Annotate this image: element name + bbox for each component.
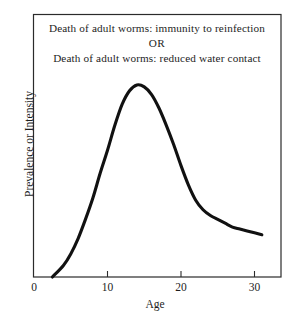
- y-axis-title: Prevalence or Intensity: [23, 59, 35, 229]
- annotation-line-1: Death of adult worms: immunity to reinfe…: [36, 21, 278, 36]
- x-tick-label-10: 10: [93, 281, 123, 293]
- x-tick-label-30: 30: [240, 281, 270, 293]
- annotation-line-2: OR: [36, 36, 278, 51]
- figure-container: Death of adult worms: immunity to reinfe…: [0, 0, 295, 329]
- x-axis-title: Age: [120, 298, 190, 310]
- x-tick-label-20: 20: [166, 281, 196, 293]
- chart-annotation: Death of adult worms: immunity to reinfe…: [36, 21, 278, 67]
- annotation-line-3: Death of adult worms: reduced water cont…: [36, 51, 278, 66]
- x-tick-label-0: 0: [19, 281, 49, 293]
